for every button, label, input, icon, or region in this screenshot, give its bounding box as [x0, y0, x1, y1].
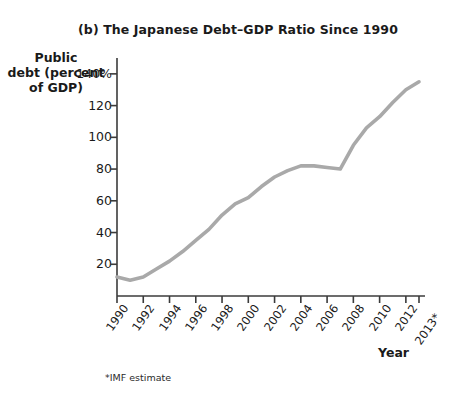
- y-axis-tick-label: 20: [42, 258, 112, 270]
- y-axis-tick-label: 40: [42, 227, 112, 239]
- y-axis-tick-label: 60: [42, 195, 112, 207]
- plot-area: [117, 58, 419, 296]
- chart-figure: (b) The Japanese Debt–GDP Ratio Since 19…: [0, 0, 476, 405]
- axis-lines: [117, 58, 425, 296]
- y-axis-tick-label: 140%: [42, 68, 112, 80]
- y-axis-tick-labels: 140%12010080604020: [38, 58, 112, 296]
- y-axis-tick-label: 120: [42, 100, 112, 112]
- plot-svg: [117, 58, 419, 296]
- chart-footnote: *IMF estimate: [105, 372, 171, 383]
- debt-ratio-line: [117, 82, 419, 280]
- x-axis-title: Year: [378, 345, 409, 360]
- chart-title: (b) The Japanese Debt–GDP Ratio Since 19…: [0, 22, 476, 37]
- y-axis-tick-label: 100: [42, 131, 112, 143]
- y-axis-tick-label: 80: [42, 163, 112, 175]
